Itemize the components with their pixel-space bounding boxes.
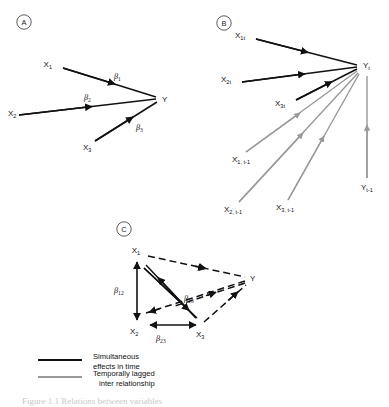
path-diagram-svg: A X1 X2 X3 Y β1 (0, 0, 389, 407)
node-label-c-x1: X1 (132, 246, 140, 256)
node-label-b-x2t: X2t (221, 75, 231, 85)
coef-label-beta23: β23 (155, 334, 166, 344)
node-label-b-x1t: X1t (235, 31, 245, 41)
panel-c-group: C X1 (113, 222, 256, 344)
legend-label-lagged-line1: Temporally lagged (93, 369, 155, 378)
arrowhead-x2t-to-yt (242, 74, 305, 82)
node-label-b-x1tm1: X1, t-1 (232, 155, 250, 165)
node-label-a-y: Y (162, 95, 168, 104)
figure-root: A X1 X2 X3 Y β1 (0, 0, 389, 407)
arrowhead-y-to-x2 (149, 309, 160, 313)
arrowhead-x2-to-y (19, 107, 92, 116)
node-label-b-x2tm1: X2, t-1 (224, 205, 242, 215)
node-label-a-x3: X3 (83, 143, 91, 153)
legend-label-simultaneous-line1: Simultaneous (93, 352, 139, 361)
coef-label-beta3: β3 (135, 123, 143, 133)
node-label-b-x3t: X3t (275, 99, 285, 109)
node-label-c-x3: X3 (196, 330, 204, 340)
node-label-c-x2: X2 (130, 327, 138, 337)
panel-a-letter: A (22, 18, 27, 27)
node-label-b-x3tm1: X3, t-1 (276, 203, 294, 213)
edge-y-to-x2-dashed (146, 281, 245, 313)
node-label-a-x1: X1 (44, 60, 52, 70)
arrowhead-x1t-to-yt (256, 39, 308, 53)
coef-label-beta1: β1 (113, 72, 121, 82)
coef-label-beta13: β13 (183, 294, 194, 304)
arrowhead-x3-to-y (95, 117, 133, 141)
panel-a-group: A X1 X2 X3 Y β1 (8, 15, 168, 153)
node-label-b-yt: Yt (363, 61, 370, 71)
arrowhead-x3-to-y (228, 292, 238, 301)
legend-label-lagged-line2: inter relationship (99, 379, 155, 388)
arrowhead-x1tm1-to-yt (246, 113, 300, 152)
diagram-legend: Simultaneous effects in time Temporally … (38, 352, 155, 389)
node-label-b-ytm1: Yt-1 (361, 183, 373, 193)
coef-label-beta12: β12 (113, 286, 124, 296)
panel-b-group: B X1t X2t (217, 16, 373, 215)
edge-x3-to-y-dashed (204, 285, 246, 322)
coef-label-beta2: β2 (83, 93, 91, 103)
arrowhead-x3t-to-yt (296, 82, 332, 101)
arrowhead-x3tm1-to-yt (288, 136, 324, 200)
arrowhead-x1-to-y (63, 68, 115, 84)
node-label-c-y: Y (250, 274, 256, 283)
arrowhead-segment-x1-to-y (195, 266, 206, 268)
panel-b-letter: B (222, 19, 227, 28)
node-label-a-x2: X2 (8, 109, 16, 119)
panel-c-letter: C (121, 225, 127, 234)
figure-caption: Figure 1.1 Relations between variables (22, 396, 163, 406)
